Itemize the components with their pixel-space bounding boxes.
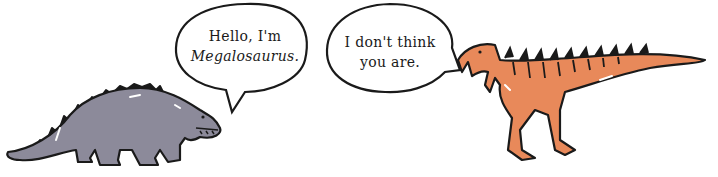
speech-right-line2: you are.: [335, 52, 445, 72]
speech-left-line1: Hello, I'm: [190, 26, 300, 46]
speech-left-line2: Megalosaurus.: [190, 46, 300, 66]
speech-right: I don't think you are.: [335, 32, 445, 72]
illustration: [0, 0, 718, 177]
comic-panel: Hello, I'm Megalosaurus. I don't think y…: [0, 0, 718, 177]
speech-right-line1: I don't think: [335, 32, 445, 52]
orange-theropod-illustration: [458, 44, 705, 160]
megalosaurus-illustration: [7, 84, 220, 165]
speech-left: Hello, I'm Megalosaurus.: [190, 26, 300, 66]
